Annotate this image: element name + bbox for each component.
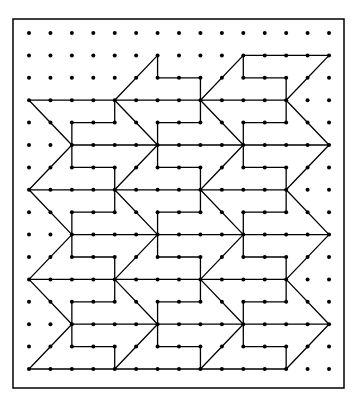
grid-dot [70,367,74,371]
grid-dot [134,345,138,349]
grid-dot [48,367,52,371]
grid-dot [198,98,202,102]
grid-dot [48,277,52,281]
grid-dot [134,31,138,35]
grid-dot [306,121,310,125]
grid-dot [306,233,310,237]
grid-dot [27,233,31,237]
grid-dot [306,210,310,214]
grid-dot [156,143,160,147]
grid-dot [113,165,117,169]
grid-dot [284,277,288,281]
grid-dot [91,165,95,169]
grid-dot [134,210,138,214]
grid-dot [113,31,117,35]
grid-dot [284,76,288,80]
grid-dot [156,188,160,192]
grid-dot [241,210,245,214]
grid-dot [263,300,267,304]
grid-dot [48,98,52,102]
grid-dot [220,165,224,169]
grid-dot [27,367,31,371]
grid-dot [113,277,117,281]
grid-dot [70,345,74,349]
grid-dot [198,210,202,214]
grid-dot [70,98,74,102]
grid-dot [91,345,95,349]
grid-dot [263,121,267,125]
grid-dot [198,143,202,147]
grid-dot [156,98,160,102]
grid-dot [198,31,202,35]
grid-dot [70,255,74,259]
grid-dot [113,367,117,371]
grid-dot [91,53,95,57]
grid-dot [198,233,202,237]
grid-dot [241,165,245,169]
grid-dot [70,322,74,326]
grid-dot [177,210,181,214]
grid-dot [220,76,224,80]
grid-dot [134,165,138,169]
grid-dot [241,233,245,237]
grid-dot [306,76,310,80]
grid-dot [27,322,31,326]
grid-dot [70,233,74,237]
grid-dot [177,31,181,35]
grid-dot [284,255,288,259]
grid-dot [134,277,138,281]
grid-dot [327,255,331,259]
grid-dot [220,210,224,214]
grid-dot [156,322,160,326]
grid-dot [327,98,331,102]
grid-dot [263,277,267,281]
grid-dot [284,98,288,102]
grid-dot [220,255,224,259]
grid-dot [327,233,331,237]
grid-dot [27,277,31,281]
grid-dot [263,345,267,349]
grid-dot [306,300,310,304]
grid-dot [177,277,181,281]
grid-dot [134,255,138,259]
grid-dot [70,143,74,147]
grid-dot [220,53,224,57]
grid-dot [177,143,181,147]
grid-dot [156,255,160,259]
grid-dot [27,31,31,35]
grid-dot [306,367,310,371]
grid-dot [156,76,160,80]
grid-dot [327,165,331,169]
grid-dot [113,210,117,214]
grid-dot [327,277,331,281]
grid-dot [134,188,138,192]
grid-dot [241,322,245,326]
grid-dot [48,188,52,192]
grid-dot [156,300,160,304]
grid-dot [284,210,288,214]
grid-dot [70,188,74,192]
grid-dot [70,53,74,57]
grid-dot [198,367,202,371]
grid-dot [198,322,202,326]
grid-dot [177,300,181,304]
grid-dot [284,165,288,169]
grid-dot [220,367,224,371]
grid-dot [198,76,202,80]
grid-dot [284,322,288,326]
grid-dot [91,98,95,102]
grid-dot [198,188,202,192]
grid-dot [177,165,181,169]
grid-dot [220,121,224,125]
grid-dot [263,53,267,57]
grid-dot [306,345,310,349]
grid-dot [263,255,267,259]
grid-dot [306,31,310,35]
grid-dot [220,322,224,326]
grid-dot [48,255,52,259]
grid-dot [198,255,202,259]
dot-grid [27,31,331,371]
grid-dot [156,31,160,35]
grid-dot [241,345,245,349]
grid-dot [134,300,138,304]
